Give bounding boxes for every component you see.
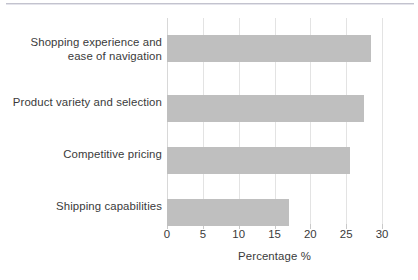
- bar-2: [167, 147, 350, 174]
- value-axis-tick-label-0: 0: [147, 228, 187, 240]
- value-axis-tick-label-30: 30: [362, 228, 402, 240]
- bar-3: [167, 199, 289, 226]
- category-label-0-line-1: ease of navigation: [2, 49, 162, 63]
- value-axis-tick-label-15: 15: [255, 228, 295, 240]
- value-axis-tick-label-20: 20: [290, 228, 330, 240]
- value-axis-tick-label-5: 5: [183, 228, 223, 240]
- bar-0: [167, 35, 371, 62]
- category-label-3: Shipping capabilities: [2, 199, 162, 213]
- gridline-30: [382, 18, 383, 224]
- category-axis-labels: Shopping experience and ease of navigati…: [0, 18, 162, 224]
- category-label-1: Product variety and selection: [2, 95, 162, 109]
- category-label-3-line-0: Shipping capabilities: [2, 199, 162, 213]
- category-label-2-line-0: Competitive pricing: [2, 147, 162, 161]
- bar-1: [167, 95, 364, 122]
- plot-area: [167, 18, 382, 224]
- top-divider-rule-shadow: [6, 4, 414, 5]
- value-axis-title: Percentage %: [167, 250, 382, 262]
- value-axis-tick-labels: 051015202530: [167, 228, 382, 244]
- category-label-0: Shopping experience and ease of navigati…: [2, 35, 162, 63]
- value-axis-tick-label-25: 25: [326, 228, 366, 240]
- value-axis-tick-label-10: 10: [219, 228, 259, 240]
- category-label-0-line-0: Shopping experience and: [2, 35, 162, 49]
- category-label-1-line-0: Product variety and selection: [2, 95, 162, 109]
- bar-chart-figure: Shopping experience and ease of navigati…: [0, 0, 418, 280]
- category-label-2: Competitive pricing: [2, 147, 162, 161]
